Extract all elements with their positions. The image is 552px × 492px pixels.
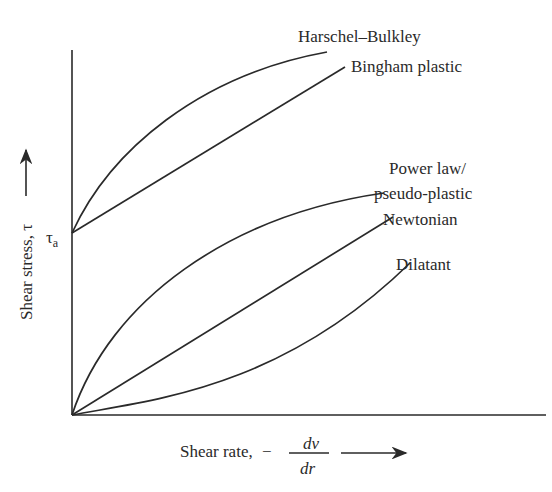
label-power-law: Power law/ (389, 159, 466, 178)
y-axis-label-group: Shear stress, τ (17, 224, 36, 320)
curve-harschel-bulkley (72, 52, 327, 233)
tau-a-marker: τa (46, 228, 59, 250)
label-pseudo-plastic: pseudo-plastic (374, 184, 473, 203)
x-axis-label: Shear rate, (180, 442, 253, 461)
label-bingham-plastic: Bingham plastic (351, 57, 462, 76)
x-axis-dv: dv (303, 434, 320, 453)
chart: Harschel–Bulkley Bingham plastic Power l… (0, 0, 552, 492)
label-dilatant: Dilatant (396, 255, 451, 274)
x-axis-minus: − (262, 442, 272, 461)
label-harschel-bulkley: Harschel–Bulkley (298, 27, 421, 46)
x-axis-dr: dr (300, 459, 316, 478)
label-newtonian: Newtonian (383, 210, 458, 229)
y-axis-label: Shear stress, τ (17, 224, 36, 320)
curve-newtonian (72, 217, 393, 415)
curve-power-law (72, 193, 384, 415)
curve-dilatant (72, 263, 410, 415)
curve-bingham-plastic (72, 67, 345, 233)
